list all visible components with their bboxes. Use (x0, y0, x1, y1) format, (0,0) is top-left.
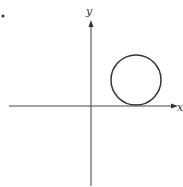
x-axis (9, 104, 178, 109)
bullet-marker (2, 15, 5, 18)
x-axis-label: x (177, 101, 183, 114)
y-axis (89, 20, 94, 186)
circle-shape (111, 55, 161, 105)
coordinate-diagram: x y (0, 0, 183, 187)
y-axis-label: y (85, 5, 93, 18)
y-axis-arrow-icon (89, 20, 94, 27)
